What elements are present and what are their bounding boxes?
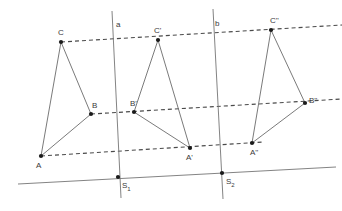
label-point-C-prime: C' xyxy=(154,26,162,35)
label-point-B: B xyxy=(92,101,97,110)
label-point-A-prime: A' xyxy=(186,153,193,162)
label-mirror-axis-b: b xyxy=(215,19,220,28)
intersection-labels-group: S1 S2 xyxy=(122,177,235,192)
dashed-line-through-A xyxy=(41,142,264,156)
triangle-A1B1C1-outline xyxy=(134,40,190,148)
label-point-S2-subscript: 2 xyxy=(231,182,235,188)
point-C-prime[interactable] xyxy=(156,38,160,42)
label-point-S2: S2 xyxy=(226,177,235,188)
label-point-A: A xyxy=(36,161,42,170)
triangle-A1B1C1 xyxy=(134,40,190,148)
point-S2[interactable] xyxy=(220,171,224,175)
label-point-S1-subscript: 1 xyxy=(127,186,131,192)
axis-labels-group: a b xyxy=(116,19,220,29)
dashed-connectors-group xyxy=(41,25,342,156)
point-B-double-prime[interactable] xyxy=(303,101,307,105)
label-point-A-double-prime: A'' xyxy=(250,148,259,157)
triangle-A2B2C2-outline xyxy=(252,30,305,143)
label-point-S1: S1 xyxy=(122,181,131,192)
baseline-through-S1-S2 xyxy=(18,167,336,184)
label-mirror-axis-a: a xyxy=(116,20,121,29)
mirror-axis-b xyxy=(213,9,223,199)
label-point-B-double-prime: B'' xyxy=(309,96,318,105)
point-B-prime[interactable] xyxy=(132,110,136,114)
triangle-ABC xyxy=(41,42,91,156)
geometry-figure: A B C A' B' C' A'' B'' C'' S1 S2 a b xyxy=(0,0,342,211)
triangle-ABC-outline xyxy=(41,42,91,156)
point-S1[interactable] xyxy=(116,175,120,179)
mirror-axis-a xyxy=(112,11,121,198)
point-A[interactable] xyxy=(39,154,43,158)
point-C-double-prime[interactable] xyxy=(269,28,273,32)
label-point-B-prime: B' xyxy=(130,99,137,108)
geometry-canvas: A B C A' B' C' A'' B'' C'' S1 S2 a b xyxy=(0,0,342,211)
dashed-line-through-C xyxy=(61,25,342,42)
label-point-C-double-prime: C'' xyxy=(270,16,279,25)
point-C[interactable] xyxy=(59,40,63,44)
triangle-A2B2C2 xyxy=(252,30,305,143)
point-B[interactable] xyxy=(89,112,93,116)
label-point-C: C xyxy=(58,28,64,37)
point-A-double-prime[interactable] xyxy=(250,141,254,145)
point-A-prime[interactable] xyxy=(188,146,192,150)
